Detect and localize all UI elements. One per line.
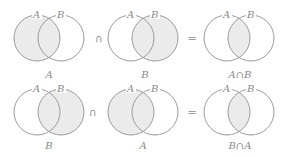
circle-label-b: B (150, 83, 158, 94)
venn-panel-row1-intersection: A B A∩B (204, 9, 274, 80)
venn-panel-row2-intersection: A B B∩A (204, 83, 274, 151)
panel-caption: B (44, 140, 52, 151)
circle-label-a: A (222, 83, 230, 94)
venn-diagram-figure: A B A ∩ A B B = A B A∩B A B B ∩ (0, 0, 286, 157)
circle-label-a: A (126, 83, 134, 94)
circle-label-b: B (56, 9, 64, 20)
circle-label-b: B (246, 83, 254, 94)
circle-label-b: B (56, 83, 64, 94)
panel-caption: A∩B (228, 69, 252, 80)
equals-operator: = (187, 32, 196, 45)
venn-panel-row1-a: A B A (14, 9, 84, 80)
panel-caption: A (138, 140, 146, 151)
panel-caption: A (44, 69, 52, 80)
circle-label-a: A (32, 83, 40, 94)
venn-panel-row2-b: A B B (14, 83, 84, 151)
circle-label-a: A (222, 9, 230, 20)
circle-label-a: A (32, 9, 40, 20)
circle-label-b: B (246, 9, 254, 20)
panel-caption: B∩A (228, 140, 252, 151)
intersection-operator: ∩ (95, 32, 103, 45)
circle-label-a: A (126, 9, 134, 20)
circle-label-b: B (150, 9, 158, 20)
intersection-operator: ∩ (89, 106, 97, 119)
equals-operator: = (187, 106, 196, 119)
venn-panel-row2-a: A B A (108, 83, 178, 151)
venn-panel-row1-b: A B B (108, 9, 178, 80)
panel-caption: B (140, 69, 148, 80)
